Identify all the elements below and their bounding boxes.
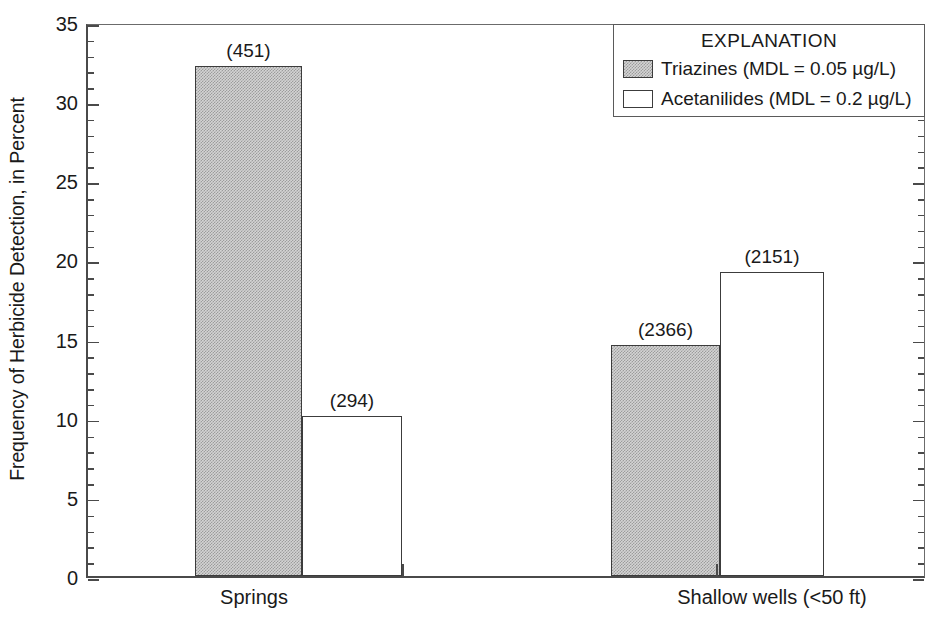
minor-tick-left	[88, 294, 94, 296]
major-tick-left	[88, 579, 99, 581]
bar	[195, 66, 302, 576]
minor-tick-left	[88, 547, 94, 549]
minor-tick-left	[88, 452, 94, 454]
minor-tick-left	[88, 563, 94, 565]
minor-tick-left	[88, 437, 94, 439]
minor-tick-right	[918, 294, 924, 296]
bar	[302, 416, 402, 576]
minor-tick-right	[918, 199, 924, 201]
minor-tick-right	[918, 136, 924, 138]
bar-value-label: (2366)	[638, 320, 693, 339]
minor-tick-right	[918, 389, 924, 391]
minor-tick-right	[918, 437, 924, 439]
minor-tick-right	[918, 532, 924, 534]
minor-tick-right	[918, 468, 924, 470]
minor-tick-right	[918, 215, 924, 217]
legend-item-acetanilides: Acetanilides (MDL = 0.2 µg/L)	[614, 84, 924, 114]
minor-tick-left	[88, 136, 94, 138]
minor-tick-left	[88, 278, 94, 280]
major-tick-left	[88, 342, 99, 344]
major-tick-right	[913, 342, 924, 344]
major-tick-right	[913, 421, 924, 423]
minor-tick-left	[88, 389, 94, 391]
y-tick-label: 5	[34, 489, 78, 509]
bar-chart-figure: Frequency of Herbicide Detection, in Per…	[0, 0, 948, 641]
minor-tick-right	[918, 247, 924, 249]
legend-title: EXPLANATION	[614, 28, 924, 54]
minor-tick-right	[918, 373, 924, 375]
minor-tick-right	[918, 231, 924, 233]
minor-tick-left	[88, 120, 94, 122]
minor-tick-right	[918, 357, 924, 359]
y-tick-label: 30	[34, 93, 78, 113]
y-tick-label: 25	[34, 172, 78, 192]
minor-tick-left	[88, 484, 94, 486]
x-axis-tick	[716, 564, 718, 576]
x-axis-tick	[402, 564, 404, 576]
minor-tick-right	[918, 310, 924, 312]
x-category-label: Springs	[220, 586, 288, 608]
legend-swatch-triazines-icon	[623, 60, 653, 78]
bar-value-label: (294)	[330, 391, 374, 410]
minor-tick-right	[918, 547, 924, 549]
major-tick-left	[88, 25, 99, 27]
major-tick-right	[913, 183, 924, 185]
minor-tick-left	[88, 231, 94, 233]
minor-tick-left	[88, 516, 94, 518]
minor-tick-right	[918, 405, 924, 407]
minor-tick-right	[918, 167, 924, 169]
minor-tick-right	[918, 484, 924, 486]
minor-tick-right	[918, 452, 924, 454]
major-tick-left	[88, 421, 99, 423]
major-tick-left	[88, 262, 99, 264]
minor-tick-left	[88, 88, 94, 90]
minor-tick-left	[88, 72, 94, 74]
minor-tick-left	[88, 247, 94, 249]
minor-tick-left	[88, 532, 94, 534]
minor-tick-left	[88, 468, 94, 470]
minor-tick-left	[88, 310, 94, 312]
minor-tick-left	[88, 215, 94, 217]
bar	[720, 272, 824, 576]
bar-value-label: (2151)	[745, 247, 800, 266]
minor-tick-right	[918, 278, 924, 280]
y-axis-title: Frequency of Herbicide Detection, in Per…	[0, 0, 34, 578]
minor-tick-left	[88, 167, 94, 169]
minor-tick-left	[88, 357, 94, 359]
legend-label-triazines: Triazines (MDL = 0.05 µg/L)	[661, 59, 896, 79]
legend-item-triazines: Triazines (MDL = 0.05 µg/L)	[614, 54, 924, 84]
minor-tick-right	[918, 326, 924, 328]
bar	[611, 345, 720, 576]
y-tick-label: 15	[34, 331, 78, 351]
bar-value-label: (451)	[226, 41, 270, 60]
minor-tick-left	[88, 152, 94, 154]
minor-tick-left	[88, 41, 94, 43]
minor-tick-right	[918, 120, 924, 122]
legend-swatch-acetanilides-icon	[623, 90, 653, 108]
major-tick-left	[88, 500, 99, 502]
y-tick-label: 20	[34, 251, 78, 271]
major-tick-right	[913, 579, 924, 581]
major-tick-right	[913, 500, 924, 502]
minor-tick-right	[918, 563, 924, 565]
minor-tick-left	[88, 373, 94, 375]
minor-tick-left	[88, 326, 94, 328]
y-tick-label: 10	[34, 410, 78, 430]
legend-box: EXPLANATION Triazines (MDL = 0.05 µg/L) …	[613, 24, 925, 117]
legend-label-acetanilides: Acetanilides (MDL = 0.2 µg/L)	[661, 89, 912, 109]
major-tick-left	[88, 183, 99, 185]
minor-tick-right	[918, 516, 924, 518]
minor-tick-left	[88, 57, 94, 59]
y-tick-label: 35	[34, 14, 78, 34]
major-tick-right	[913, 262, 924, 264]
minor-tick-left	[88, 199, 94, 201]
y-tick-label: 0	[34, 568, 78, 588]
major-tick-left	[88, 104, 99, 106]
minor-tick-right	[918, 152, 924, 154]
x-category-label: Shallow wells (<50 ft)	[677, 586, 867, 608]
minor-tick-left	[88, 405, 94, 407]
